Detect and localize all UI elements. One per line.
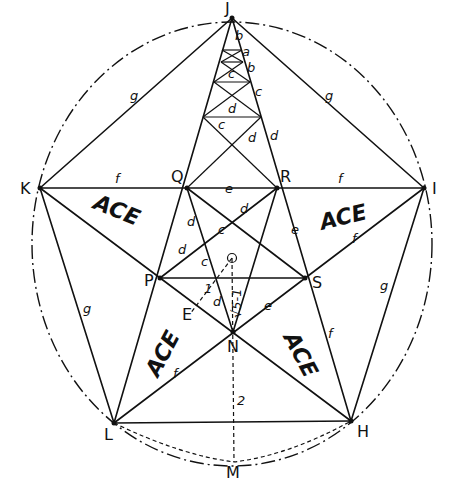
seg-f-4: f — [328, 326, 335, 341]
seg-b-1: b — [235, 28, 243, 43]
seg-d-2: d — [248, 130, 257, 145]
seg-g-2: g — [325, 88, 333, 103]
seg-d-4: d — [187, 214, 196, 229]
seg-d-5: d — [240, 201, 249, 216]
label-N: N — [227, 337, 239, 356]
edge-JK — [40, 18, 232, 188]
tower-x-3a — [214, 82, 261, 117]
label-K: K — [20, 179, 31, 198]
seg-e-3: e — [264, 298, 272, 313]
label-M: M — [226, 463, 240, 482]
seg-c-1: c — [228, 66, 235, 81]
seg-d-6: d — [178, 242, 187, 257]
seg-b-2: b — [247, 60, 255, 75]
region-ace-right: ACE — [315, 199, 369, 235]
label-R: R — [280, 167, 291, 186]
seg-c-2: c — [255, 84, 262, 99]
diagram-canvas: J K I Q R P S N L H E M b a b c c d c d … — [0, 0, 465, 500]
label-S: S — [312, 273, 322, 292]
seg-d-3: d — [270, 128, 279, 143]
seg-g-3: g — [83, 301, 91, 316]
label-J: J — [224, 0, 230, 18]
pentagram-diagram: J K I Q R P S N L H E M b a b c c d c d … — [0, 0, 465, 500]
edge-LH — [114, 421, 351, 423]
label-Q: Q — [171, 167, 184, 186]
region-ace-left: ACE — [88, 189, 143, 231]
label-L: L — [104, 425, 113, 444]
label-P: P — [144, 271, 154, 290]
seg-d-7: d — [213, 294, 222, 309]
seg-f-2: f — [338, 171, 345, 186]
dashed-LMH — [114, 421, 351, 462]
edge-JI — [232, 18, 424, 188]
seg-g-4: g — [380, 278, 388, 293]
seg-f-1: f — [115, 171, 122, 186]
label-H: H — [357, 422, 369, 441]
circumcircle — [32, 22, 432, 466]
seg-c-5: c — [201, 254, 208, 269]
seg-g-1: g — [130, 88, 138, 103]
tower-x-4a — [203, 117, 277, 188]
label-E: E — [182, 305, 192, 324]
line-QN — [187, 188, 233, 332]
seg-c-3: c — [218, 117, 225, 132]
seg-a: a — [242, 44, 250, 59]
seg-d-1: d — [228, 101, 237, 116]
seg-c-4: c — [218, 222, 225, 237]
seg-1: 1 — [204, 281, 212, 296]
region-ace-bottom-right: ACE — [278, 326, 323, 381]
seg-sqrt5-minus-1: √5-1 — [229, 288, 244, 318]
seg-e-1: e — [225, 181, 233, 196]
edge-KL — [40, 188, 114, 423]
seg-e-2: e — [291, 222, 299, 237]
tower-x-3b — [203, 82, 250, 117]
seg-2: 2 — [237, 393, 245, 408]
label-I: I — [432, 179, 437, 198]
